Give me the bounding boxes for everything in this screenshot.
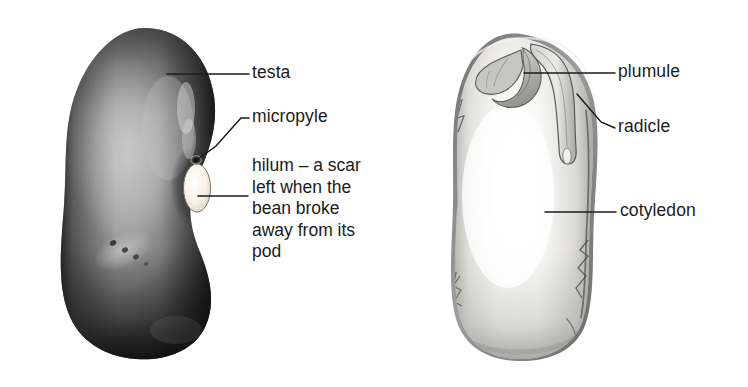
hilum-scar [184,164,211,212]
label-plumule: plumule [618,63,680,81]
label-hilum-line-2: left when the [252,177,361,199]
label-cotyledon: cotyledon [620,202,696,220]
label-radicle: radicle [618,118,670,136]
bean-seed-diagram: testa micropyle hilum – a scar left when… [0,0,748,387]
label-hilum-line-5: pod [252,241,361,263]
whole-bean-illustration [55,20,225,370]
label-hilum: hilum – a scar left when the bean broke … [252,155,361,263]
label-hilum-line-1: hilum – a scar [252,155,361,177]
label-micropyle: micropyle [252,108,328,126]
label-testa: testa [252,64,290,82]
label-hilum-line-3: bean broke [252,198,361,220]
diagram-canvas [0,0,748,387]
opened-bean-illustration [450,30,600,370]
label-hilum-line-4: away from its [252,220,361,242]
